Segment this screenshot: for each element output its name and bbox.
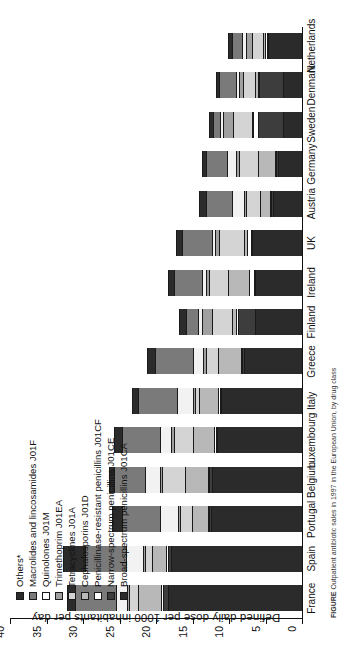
bar-segment [138,585,161,611]
bar-segment [246,191,260,217]
legend-label: Quinolones J01M [41,512,51,587]
y-axis-tick: 40 [0,626,6,638]
figure-caption: FIGURE Outpatient antibiotic sales in 19… [330,368,337,618]
y-axis-tick: 0 [286,626,298,632]
y-axis-tick: 35 [31,626,43,638]
legend-item[interactable]: Broad-spectrum penicillins J01CA [118,419,129,600]
y-axis-tickmark [266,619,267,624]
legend-item[interactable]: Narrow-spectrum penicillins J01CE [105,419,116,600]
bar-segment [212,309,232,335]
bar-segment [233,112,252,138]
x-axis-label-greece: Greece [306,345,317,378]
bar-segment [283,112,302,138]
bar-segment [152,546,166,572]
legend-label: Macrolides and lincosamides J01F [28,440,38,587]
bar-segment [283,72,302,98]
bar-segment [213,112,220,138]
bar-germany[interactable] [202,151,302,177]
x-axis-label-uk: UK [306,236,317,250]
bar-segment [221,388,302,414]
rotated-figure-canvas: Defined daily dose per 1000 inhabitants … [0,0,354,672]
x-axis-label-france: France [306,583,317,614]
legend-label: Penicillinase-resistant penicillins J01C… [93,419,103,587]
bar-segment [243,72,255,98]
x-axis-label-italy: Italy [306,392,317,410]
y-axis-tickmark [83,619,84,624]
bar-segment [252,33,263,59]
legend-swatch-icon [55,592,63,600]
bar-segment [162,467,185,493]
legend-item[interactable]: Penicillinase-resistant penicillins J01C… [92,419,103,600]
bar-segment [193,348,204,374]
x-axis-label-ireland: Ireland [306,267,317,298]
bar-segment [186,309,198,335]
legend-label: Trimethoprim J01EA [54,500,64,587]
bar-segment [174,270,202,296]
legend-label: Tetracyclines J01A [67,507,77,587]
bar-luxembourg[interactable] [114,427,302,453]
legend-swatch-icon [68,592,76,600]
bar-segment [177,388,194,414]
legend-swatch-icon [120,592,128,600]
chart-legend: Others*Macrolides and lincosamides J01FQ… [14,419,131,600]
bar-segment [160,427,171,453]
legend-item[interactable]: Macrolides and lincosamides J01F [27,419,38,600]
bar-segment [155,348,192,374]
bar-sweden[interactable] [209,112,302,138]
bar-segment [258,112,283,138]
bar-segment [212,467,302,493]
x-axis-label-luxembourg: Luxembourg [306,413,317,469]
legend-swatch-icon [94,592,102,600]
bar-segment [193,427,215,453]
chart-plot-area: Defined daily dose per 1000 inhabitants … [0,0,354,672]
bar-segment [202,309,211,335]
y-axis-tick: 20 [140,626,152,638]
bar-segment [217,427,302,453]
bar-finland[interactable] [179,309,302,335]
bar-segment [192,506,208,532]
legend-item[interactable]: Cephalosporins J01D [79,419,90,600]
y-axis-tickmark [193,619,194,624]
figure-caption-text: Outpatient antibiotic sales in 1997 in t… [330,368,337,590]
x-axis-label-germany: Germany [306,144,317,185]
legend-item[interactable]: Tetracyclines J01A [66,419,77,600]
bar-segment [179,309,186,335]
y-axis-tickmark [47,619,48,624]
bar-greece[interactable] [147,348,302,374]
x-axis-label-austria: Austria [306,188,317,219]
bar-italy[interactable] [132,388,302,414]
y-axis-tickmark [10,619,11,624]
bar-segment [259,72,283,98]
bar-segment [239,151,258,177]
bar-netherlands[interactable] [228,33,302,59]
legend-swatch-icon [16,592,24,600]
bar-segment [199,388,218,414]
bar-belgium[interactable] [109,467,302,493]
legend-swatch-icon [107,592,115,600]
bar-segment [219,72,237,98]
x-axis-line [302,27,303,619]
bar-portugal[interactable] [112,506,302,532]
legend-item[interactable]: Trimethoprim J01EA [53,419,64,600]
legend-item[interactable]: Quinolones J01M [40,419,51,600]
figure-caption-label: FIGURE [330,592,337,618]
bar-segment [206,348,218,374]
bar-segment [180,506,192,532]
bar-segment [168,585,302,611]
bar-ireland[interactable] [168,270,302,296]
bar-segment [160,506,178,532]
legend-label: Cephalosporins J01D [80,495,90,587]
bar-denmark[interactable] [216,72,302,98]
legend-item[interactable]: Others* [14,419,25,600]
bar-austria[interactable] [199,191,302,217]
bar-uk[interactable] [176,230,302,256]
y-axis-tick: 10 [213,626,225,638]
bar-segment [268,33,302,59]
bar-segment [223,112,232,138]
bar-segment [255,309,302,335]
bar-segment [258,151,276,177]
bar-segment [238,309,255,335]
bar-segment [145,546,152,572]
bar-segment [147,348,156,374]
x-axis-label-finland: Finland [306,306,317,339]
